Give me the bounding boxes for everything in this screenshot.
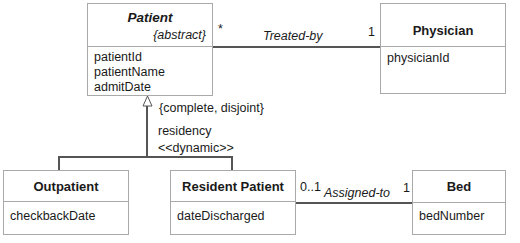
attribute: admitDate — [94, 80, 165, 95]
class-attributes: dateDischarged — [177, 209, 265, 224]
class-outpatient: Outpatient checkbackDate — [3, 170, 129, 235]
class-resident-patient: Resident Patient dateDischarged — [170, 170, 296, 235]
association-line-treated-by — [213, 46, 380, 48]
multiplicity-resident: 0..1 — [300, 180, 321, 194]
class-attributes: checkbackDate — [10, 209, 95, 224]
association-line-assigned-to — [296, 202, 412, 204]
class-name: Outpatient — [4, 179, 128, 194]
class-bed-header: Bed — [413, 171, 505, 203]
class-attributes: physicianId — [387, 51, 450, 66]
class-stereotype: {abstract} — [153, 28, 206, 42]
generalization-bar — [58, 156, 233, 158]
generalization-discriminator: residency — [158, 124, 212, 138]
class-patient-header: Patient {abstract} — [88, 4, 212, 47]
attribute: dateDischarged — [177, 209, 265, 224]
generalization-constraint: {complete, disjoint} — [159, 101, 264, 115]
class-patient: Patient {abstract} patientId patientName… — [87, 3, 213, 96]
attribute: patientId — [94, 50, 165, 65]
class-name: Bed — [413, 179, 505, 194]
generalization-arrow-icon — [140, 95, 156, 111]
attribute: patientName — [94, 65, 165, 80]
attribute: bedNumber — [419, 209, 484, 224]
generalization-branch-resident — [231, 156, 233, 171]
class-physician-header: Physician — [381, 4, 505, 47]
association-name-assigned-to: Assigned-to — [324, 186, 390, 200]
generalization-branch-outpatient — [58, 156, 60, 171]
multiplicity-patient: * — [218, 22, 223, 36]
association-name-treated-by: Treated-by — [263, 29, 323, 43]
class-name: Resident Patient — [171, 179, 295, 194]
class-outpatient-header: Outpatient — [4, 171, 128, 202]
attribute: checkbackDate — [10, 209, 95, 224]
multiplicity-physician: 1 — [368, 25, 375, 39]
class-name: Physician — [381, 23, 505, 38]
generalization-stereotype: <<dynamic>> — [158, 141, 234, 155]
class-name: Patient — [88, 10, 212, 25]
class-attributes: bedNumber — [419, 209, 484, 224]
class-resident-header: Resident Patient — [171, 171, 295, 202]
generalization-stem — [146, 106, 148, 158]
class-physician: Physician physicianId — [380, 3, 506, 94]
class-bed: Bed bedNumber — [412, 170, 506, 235]
multiplicity-bed: 1 — [403, 181, 410, 195]
attribute: physicianId — [387, 51, 450, 66]
class-attributes: patientId patientName admitDate — [94, 50, 165, 95]
